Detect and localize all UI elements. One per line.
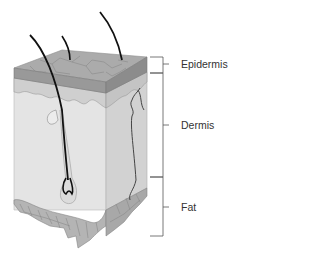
label-epidermis: Epidermis (181, 58, 228, 70)
bracket-fat (150, 177, 163, 236)
label-fat: Fat (181, 201, 196, 213)
label-dermis: Dermis (181, 119, 214, 131)
hair-shaft-right (100, 12, 122, 60)
bracket-dermis (150, 73, 163, 177)
bracket-epidermis (150, 57, 163, 73)
layer-brackets (150, 57, 169, 236)
